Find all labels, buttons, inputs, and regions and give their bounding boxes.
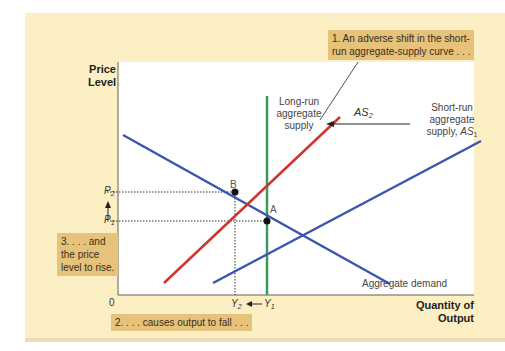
- callout3-line3: level to rise.: [61, 261, 114, 274]
- ad-label: Aggregate demand: [362, 278, 447, 290]
- callout1-leader: [320, 62, 358, 120]
- callout1-line1: 1. An adverse shift in the short-: [332, 32, 470, 45]
- as2-symbol: AS: [354, 106, 369, 118]
- lras-label-line1: Long-run: [273, 96, 325, 108]
- callout3-line1: 3. . . . and: [61, 235, 114, 248]
- as2-subscript: 2: [369, 112, 373, 119]
- price-rise-arrowhead: [105, 201, 111, 208]
- output-fall-arrowhead: [246, 301, 252, 307]
- y1-subscript: 1: [271, 303, 275, 310]
- y-axis-title-line1: Price: [88, 63, 116, 76]
- point-a-label: A: [270, 204, 277, 216]
- as1-label-line2: aggregate: [420, 114, 484, 126]
- origin-label: 0: [109, 297, 115, 309]
- as1-label-prefix: supply,: [427, 126, 461, 137]
- callout-price-rise: 3. . . . and the price level to rise.: [57, 233, 118, 276]
- as1-label-line1: Short-run: [420, 102, 484, 114]
- y2-label: Y2: [231, 298, 242, 313]
- callout3-line2: the price: [61, 248, 114, 261]
- y2-subscript: 2: [238, 303, 242, 310]
- y1-symbol: Y: [264, 298, 271, 309]
- as1-label: Short-run aggregate supply, AS1: [420, 102, 484, 141]
- lras-label: Long-run aggregate supply: [273, 96, 325, 132]
- x-axis-title: Quantity of Output: [400, 299, 474, 325]
- p1-symbol: P: [104, 214, 111, 225]
- x-axis-title-line1: Quantity of: [400, 299, 474, 312]
- as2-curve: [164, 117, 340, 283]
- y-axis-title: Price Level: [88, 63, 116, 89]
- y1-label: Y1: [264, 298, 275, 313]
- as1-symbol: AS: [460, 126, 473, 137]
- as2-label: AS2: [354, 106, 373, 122]
- callout-output-fall: 2. . . . causes output to fall . . .: [111, 314, 252, 331]
- y2-symbol: Y: [231, 298, 238, 309]
- p2-symbol: P: [104, 185, 111, 196]
- lras-label-line2: aggregate: [273, 108, 325, 120]
- callout-adverse-shift: 1. An adverse shift in the short- run ag…: [328, 30, 474, 60]
- p1-label: P1: [104, 214, 115, 229]
- p2-subscript: 2: [111, 190, 115, 197]
- point-b-label: B: [230, 179, 237, 191]
- y-axis-title-line2: Level: [88, 76, 116, 89]
- as1-subscript: 1: [474, 131, 478, 138]
- as1-label-line3: supply, AS1: [420, 126, 484, 141]
- lras-label-line3: supply: [273, 120, 325, 132]
- callout1-line2: run aggregate-supply curve . . .: [332, 45, 470, 58]
- as1-curve: [213, 141, 481, 283]
- point-a: [264, 218, 271, 225]
- p1-subscript: 1: [111, 219, 115, 226]
- x-axis-title-line2: Output: [400, 312, 474, 325]
- p2-label: P2: [104, 185, 115, 200]
